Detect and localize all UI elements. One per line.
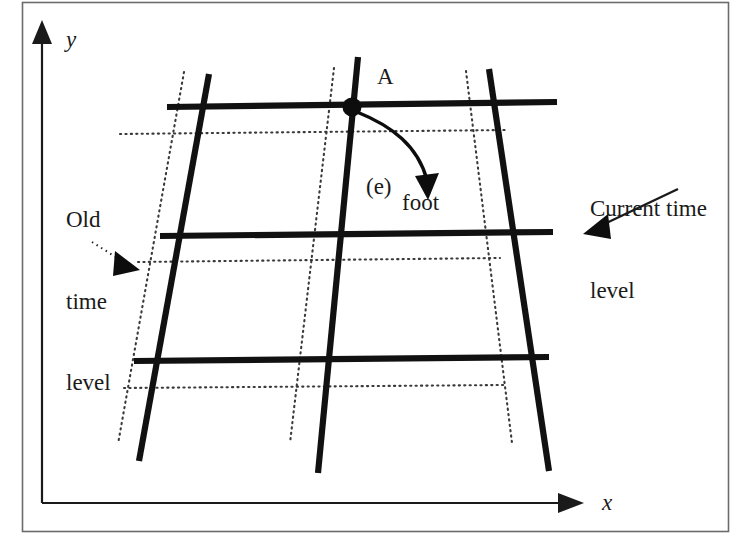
solid-vertical-line — [489, 69, 549, 471]
old-time-level-label: Old time level — [66, 152, 111, 450]
x-axis-arrowhead — [558, 493, 584, 513]
dotted-vertical-line — [466, 71, 512, 443]
solid-horizontal-line — [134, 357, 549, 361]
solid-grid-current-time-level — [134, 57, 557, 473]
old-time-level-line: level — [66, 369, 111, 396]
x-axis-label: x — [602, 489, 612, 516]
trajectory-curve-e — [357, 112, 427, 180]
old-time-level-line: Old — [66, 206, 111, 233]
y-axis-arrowhead — [32, 20, 52, 44]
point-a-label: A — [377, 63, 394, 90]
current-time-level-line: level — [590, 277, 707, 304]
trajectory-label-e: (e) — [366, 173, 392, 200]
old-time-level-arrowhead — [113, 251, 140, 276]
figure-canvas: y x A (e) foot Old time level Current ti… — [0, 0, 745, 539]
current-time-level-label: Current time level — [590, 141, 707, 358]
solid-horizontal-line — [167, 102, 557, 107]
dotted-horizontal-line — [124, 385, 506, 388]
solid-vertical-line — [318, 57, 358, 473]
y-axis-label: y — [66, 26, 76, 53]
foot-label: foot — [402, 189, 439, 216]
old-time-level-line: time — [66, 288, 111, 315]
solid-horizontal-line — [160, 232, 553, 236]
current-time-level-line: Current time — [590, 195, 707, 222]
dotted-horizontal-line — [138, 258, 500, 262]
dotted-horizontal-line — [120, 130, 508, 134]
